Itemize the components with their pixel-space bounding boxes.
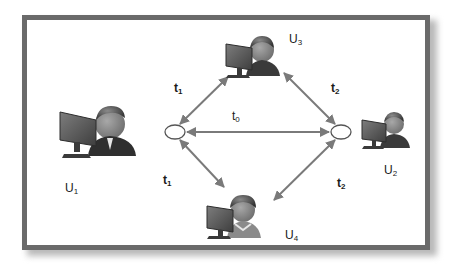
edge-label-center: t0 xyxy=(232,110,240,124)
edge-label-right-top: t2 xyxy=(331,82,339,96)
right-hub-node xyxy=(331,125,351,139)
user-u3-computer-icon xyxy=(226,36,280,78)
user-u4-computer-icon xyxy=(207,195,261,239)
user-u1-computer-icon xyxy=(60,106,136,158)
diagram-canvas xyxy=(0,0,456,272)
edge-label-right-bottom: t2 xyxy=(337,177,345,191)
edge-right-hub-u4 xyxy=(274,140,335,200)
edge-left-hub-u4 xyxy=(180,140,224,187)
edge-right-hub-u3 xyxy=(284,73,335,124)
user-label-u2: U2 xyxy=(384,164,397,178)
edge-label-left-top: t1 xyxy=(174,82,182,96)
edge-left-hub-u3 xyxy=(180,77,228,124)
user-label-u3: U3 xyxy=(289,33,302,47)
user-label-u4: U4 xyxy=(285,229,298,243)
user-label-u1: U1 xyxy=(65,182,78,196)
edge-label-left-bottom: t1 xyxy=(163,174,171,188)
left-hub-node xyxy=(165,125,185,139)
user-u2-computer-icon xyxy=(362,112,410,149)
